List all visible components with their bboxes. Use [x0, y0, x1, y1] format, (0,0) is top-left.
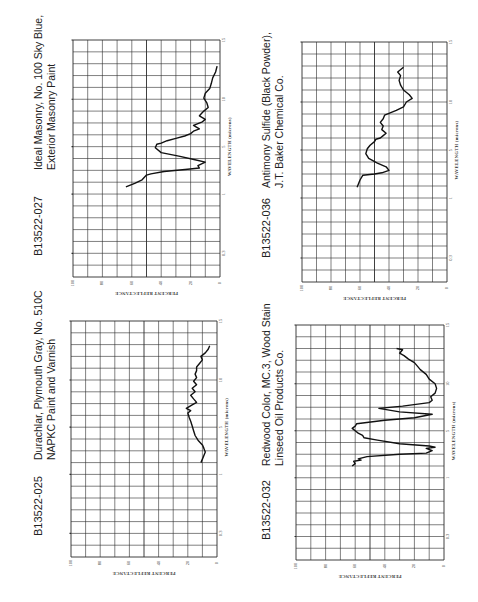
x-tick-label: 80	[323, 563, 328, 568]
reflectance-chart: 100806040200PERCENT REFLECTANCE0.3151015…	[0, 0, 478, 602]
grid	[296, 325, 444, 560]
chart-panel-b13522-032: B13522-032 Redwood Color, MC.3, Wood Sta…	[0, 0, 478, 602]
x-axis-title: PERCENT REFLECTANCE	[338, 574, 401, 579]
y-tick-label: 15	[445, 322, 450, 327]
y-tick-label: 5	[445, 429, 450, 432]
x-tick-label: 0	[441, 564, 446, 567]
x-tick-label: 20	[411, 563, 416, 568]
x-tick-label: 60	[352, 563, 357, 568]
y-tick-label: 10	[445, 381, 450, 386]
y-tick-label: 0.3	[445, 533, 450, 539]
x-tick-label: 40	[382, 563, 387, 568]
y-tick-label: 1	[445, 477, 450, 479]
y-axis-title: WAVELENGTH (microns)	[451, 401, 456, 460]
x-tick-label: 100	[293, 562, 298, 570]
